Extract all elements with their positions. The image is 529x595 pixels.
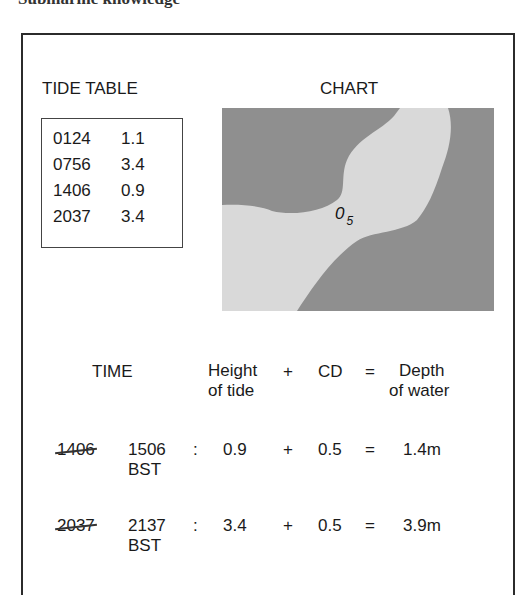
equals: = [365,516,375,536]
tide-height: 1.1 [121,129,145,149]
plus: + [283,440,293,460]
height-value: 3.4 [223,516,247,536]
height-value: 0.9 [223,440,247,460]
cut-off-heading: Submarine knowledge [18,0,180,9]
bst-time: 2137 BST [128,516,166,556]
bst-label: BST [128,460,166,480]
bst-label: BST [128,536,166,556]
sounding-metres: 0 [335,204,344,223]
header-depth-line2: of water [389,381,449,401]
header-height-line2: of tide [208,381,257,401]
struck-time-text: 1406 [57,440,95,460]
tide-table: 0124 1.1 0756 3.4 1406 0.9 2037 3.4 [41,118,183,248]
header-cd: CD [318,362,343,382]
channel-shape [222,108,494,311]
cd-value: 0.5 [318,516,342,536]
equals: = [365,440,375,460]
tide-time: 0756 [53,155,91,175]
tide-table-title: TIDE TABLE [42,79,138,99]
header-height-line1: Height [208,361,257,381]
tide-height: 3.4 [121,207,145,227]
chart-title: CHART [320,79,378,99]
plus: + [283,516,293,536]
header-depth-line1: Depth [389,361,449,381]
tide-height: 0.9 [121,181,145,201]
header-equals: = [365,362,375,382]
chart-sounding: 05 [335,204,353,228]
tide-time: 1406 [53,181,91,201]
tide-time: 2037 [53,207,91,227]
cd-value: 0.5 [318,440,342,460]
nautical-chart [222,108,494,311]
depth-value: 1.4m [403,440,441,460]
colon: : [193,516,198,536]
header-plus: + [283,362,293,382]
header-time: TIME [92,362,133,382]
struck-time: 2037 [57,516,95,536]
depth-value: 3.9m [403,516,441,536]
sounding-decimetres: 5 [346,214,353,228]
struck-time: 1406 [57,440,95,460]
bst-time-value: 2137 [128,516,166,536]
colon: : [193,440,198,460]
struck-time-text: 2037 [57,516,95,536]
header-height-of-tide: Height of tide [208,361,257,401]
bst-time-value: 1506 [128,440,166,460]
tide-time: 0124 [53,129,91,149]
header-depth-of-water: Depth of water [389,361,449,401]
tide-height: 3.4 [121,155,145,175]
bst-time: 1506 BST [128,440,166,480]
